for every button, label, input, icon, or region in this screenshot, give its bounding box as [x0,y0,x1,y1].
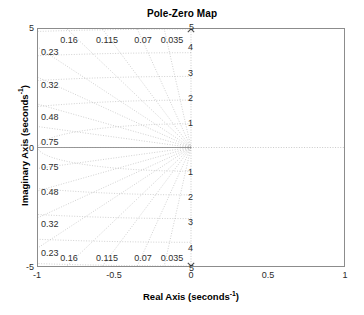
axis-lines [38,29,344,266]
y-tick-label: 0 [29,143,34,153]
x-tick-label: 0.5 [262,270,275,280]
damping-ratio-label: 0.16 [60,254,78,263]
natural-frequency-label: 2 [188,193,193,202]
natural-frequency-label: 1 [188,119,193,128]
y-axis-label: Imaginary Axis (seconds-1) [19,26,30,266]
damping-ratio-label: 0.23 [41,48,59,57]
plot-grid-svg [38,29,344,266]
y-tick-label: 5 [29,23,34,33]
x-tick-label: -1 [33,270,41,280]
damping-ratio-label: 0.23 [41,249,59,258]
damping-ratio-label: 0.115 [96,254,118,263]
x-tick-label: -0.5 [106,270,122,280]
pole-zero-figure: Pole-Zero Map 0.160.1150.070.0350.230.32… [0,0,364,315]
damping-ray [127,148,191,267]
damping-ratio-label: 0.16 [60,36,78,45]
damping-ray [62,29,191,148]
damping-ratio-label: 0.115 [96,36,118,45]
plot-area[interactable] [37,28,345,267]
damping-ratio-label: 0.32 [41,81,59,90]
damping-ratio-label: 0.75 [41,138,59,147]
x-tick-label: 0 [188,270,193,280]
damping-ratio-label: 0.07 [134,254,152,263]
damping-ratio-label: 0.48 [41,188,59,197]
x-tick-label: 1 [342,270,347,280]
natural-frequency-label: 3 [188,69,193,78]
natural-frequency-label: 5 [189,23,194,32]
x-axis-label: Real Axis (seconds-1) [37,291,345,302]
damping-ray [127,29,191,148]
natural-frequency-label: 4 [188,43,193,52]
damping-ray [62,148,191,267]
damping-ratio-label: 0.75 [41,163,59,172]
damping-ratio-label: 0.035 [161,254,184,263]
natural-frequency-label: 3 [188,218,193,227]
damping-ratio-label: 0.32 [41,220,59,229]
natural-frequency-label: 1 [188,168,193,177]
damping-ratio-label: 0.48 [41,113,59,122]
damping-ratio-label: 0.07 [134,36,152,45]
damping-ratio-label: 0.035 [161,36,184,45]
natural-frequency-label: 2 [188,94,193,103]
page-title: Pole-Zero Map [0,8,364,19]
natural-frequency-label: 4 [188,244,193,253]
